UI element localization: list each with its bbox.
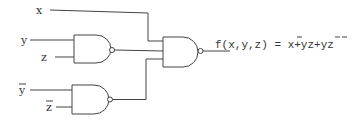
input-label-y: y — [20, 34, 28, 47]
input-label-zbar: z — [46, 101, 52, 114]
wire-g2-out — [113, 59, 164, 100]
input-label-x: x — [36, 4, 43, 17]
output-formula: f(x,y,z) = x+yz+yz — [215, 39, 334, 51]
nand-gate-1 — [74, 35, 111, 63]
input-label-z: z — [41, 51, 47, 64]
logic-circuit-diagram: x y z y z f(x,y,z) = x+yz+yz — [0, 0, 354, 122]
formula-lhs: f(x,y,z) = — [215, 39, 288, 51]
nand-gate-2-bubble — [108, 97, 113, 102]
formula-term-yz: +yz+ — [294, 39, 320, 51]
nand-gate-output-bubble — [198, 49, 203, 54]
nand-gate-2 — [72, 85, 109, 114]
input-label-ybar: y — [18, 84, 26, 97]
wire-x — [50, 10, 163, 41]
formula-term-zbar: z — [327, 39, 334, 51]
wire-g1-out — [115, 50, 164, 51]
nand-gate-1-bubble — [110, 48, 115, 53]
nand-gate-output — [163, 37, 198, 67]
